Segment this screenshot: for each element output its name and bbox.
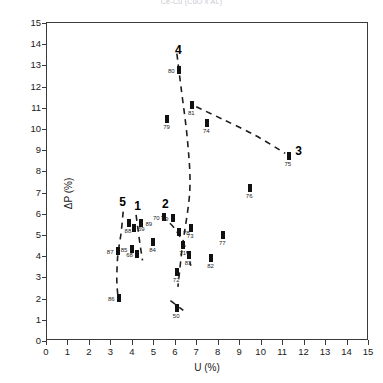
data-point <box>117 294 121 302</box>
figure: Ce-Cu (CuO x AL) 50707172737475767778798… <box>0 0 383 383</box>
x-tick-mark <box>261 340 262 345</box>
data-point <box>177 66 181 74</box>
data-point <box>132 224 136 232</box>
x-tick-mark <box>325 340 326 345</box>
data-point-label: 72 <box>173 277 180 283</box>
x-tick-label: 7 <box>186 347 206 357</box>
y-tick-mark <box>42 65 47 66</box>
data-point <box>187 251 191 259</box>
data-point <box>177 228 181 236</box>
data-point-label: 90 <box>162 216 169 222</box>
y-tick-mark <box>42 44 47 45</box>
x-tick-mark <box>110 340 111 345</box>
y-axis-title: ΔP (%) <box>63 159 74 229</box>
y-tick-mark <box>42 150 47 151</box>
x-tick-label: 1 <box>57 347 77 357</box>
y-tick-label: 3 <box>17 272 41 282</box>
x-tick-mark <box>46 340 47 345</box>
y-tick-mark <box>42 256 47 257</box>
data-point-label: 74 <box>203 128 210 134</box>
data-point-label: 87 <box>107 249 114 255</box>
y-tick-mark <box>42 23 47 24</box>
y-tick-label: 0 <box>17 336 41 346</box>
x-tick-mark <box>304 340 305 345</box>
x-axis-ticks: 0123456789101112131415 <box>46 340 368 364</box>
x-tick-mark <box>239 340 240 345</box>
y-tick-label: 5 <box>17 230 41 240</box>
x-tick-mark <box>132 340 133 345</box>
y-tick-mark <box>42 299 47 300</box>
data-point-label: 80 <box>168 68 175 74</box>
data-point-label: 84 <box>149 247 156 253</box>
x-tick-label: 14 <box>337 347 357 357</box>
data-point-label: 50 <box>173 313 180 319</box>
y-tick-mark <box>42 235 47 236</box>
y-tick-label: 8 <box>17 166 41 176</box>
x-tick-label: 13 <box>315 347 335 357</box>
data-point <box>209 254 213 262</box>
data-point-label: 70 <box>153 215 160 221</box>
data-point-label: 77 <box>219 240 226 246</box>
y-tick-label: 12 <box>17 82 41 92</box>
x-tick-mark <box>347 340 348 345</box>
data-point <box>116 247 120 255</box>
data-point-label: 68 <box>126 252 133 258</box>
y-tick-label: 11 <box>17 103 41 113</box>
group-label: 5 <box>119 196 126 208</box>
y-tick-label: 13 <box>17 60 41 70</box>
x-tick-label: 2 <box>79 347 99 357</box>
data-point <box>205 119 209 127</box>
y-tick-label: 2 <box>17 294 41 304</box>
group-label: 1 <box>134 200 141 212</box>
y-tick-label: 10 <box>17 124 41 134</box>
x-tick-label: 0 <box>36 347 56 357</box>
data-point <box>175 304 179 312</box>
group-label: 4 <box>175 44 182 56</box>
data-point <box>287 152 291 160</box>
data-point-label: 82 <box>207 263 214 269</box>
x-tick-mark <box>196 340 197 345</box>
data-point-label: 76 <box>246 193 253 199</box>
data-point-label: 83 <box>185 260 192 266</box>
x-tick-label: 10 <box>251 347 271 357</box>
data-point <box>221 231 225 239</box>
plot-area: 5070717273747576777879808182838485868788… <box>46 22 368 340</box>
group-label: 2 <box>162 198 169 210</box>
x-tick-label: 12 <box>294 347 314 357</box>
x-tick-mark <box>218 340 219 345</box>
data-point-label: 89 <box>145 221 152 227</box>
y-tick-mark <box>42 171 47 172</box>
y-tick-label: 4 <box>17 251 41 261</box>
y-tick-label: 1 <box>17 315 41 325</box>
data-point <box>151 238 155 246</box>
x-tick-label: 5 <box>143 347 163 357</box>
data-point-label: 78 <box>183 230 190 236</box>
data-point-label: 79 <box>163 124 170 130</box>
y-tick-mark <box>42 129 47 130</box>
y-tick-label: 9 <box>17 145 41 155</box>
x-tick-mark <box>89 340 90 345</box>
x-tick-mark <box>282 340 283 345</box>
y-tick-label: 14 <box>17 39 41 49</box>
data-point <box>248 184 252 192</box>
x-tick-label: 11 <box>272 347 292 357</box>
x-tick-label: 3 <box>100 347 120 357</box>
data-point <box>165 115 169 123</box>
x-tick-label: 15 <box>358 347 378 357</box>
y-tick-label: 15 <box>17 18 41 28</box>
y-tick-mark <box>42 214 47 215</box>
data-point <box>175 268 179 276</box>
y-tick-mark <box>42 193 47 194</box>
data-point <box>171 214 175 222</box>
data-point <box>127 219 131 227</box>
data-point <box>190 101 194 109</box>
y-tick-mark <box>42 108 47 109</box>
y-tick-label: 6 <box>17 209 41 219</box>
trend-curves-layer <box>47 23 369 341</box>
data-point-label: 81 <box>188 110 195 116</box>
group-label: 3 <box>295 145 302 157</box>
x-tick-mark <box>153 340 154 345</box>
x-tick-label: 9 <box>229 347 249 357</box>
x-tick-label: 8 <box>208 347 228 357</box>
y-tick-mark <box>42 277 47 278</box>
